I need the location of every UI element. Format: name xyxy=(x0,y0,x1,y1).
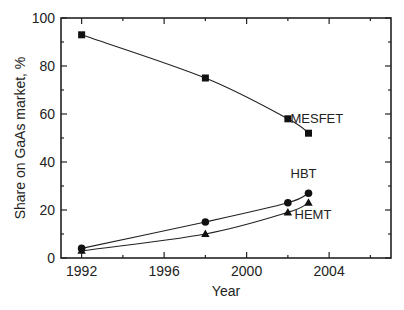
x-tick-label: 2000 xyxy=(231,263,262,279)
series-layer xyxy=(77,31,312,254)
hbt-line xyxy=(82,193,309,248)
hbt-point xyxy=(284,199,292,207)
y-axis-title: Share on GaAs market, % xyxy=(12,57,28,220)
hbt-point xyxy=(202,218,210,226)
mesfet-label: MESFET xyxy=(291,111,344,126)
y-tick-label: 40 xyxy=(39,154,55,170)
axis-ticks: 1992199620002004020406080100 xyxy=(32,10,391,279)
x-axis-title: Year xyxy=(212,283,241,299)
mesfet-point xyxy=(202,75,209,82)
y-tick-label: 100 xyxy=(32,10,56,26)
hemt-label: HEMT xyxy=(295,207,332,222)
y-tick-label: 20 xyxy=(39,202,55,218)
plot-frame xyxy=(61,18,391,258)
y-tick-label: 80 xyxy=(39,58,55,74)
mesfet-line xyxy=(82,35,309,133)
hbt-point xyxy=(305,189,313,197)
gaas-market-share-chart: 1992199620002004020406080100 Year Share … xyxy=(0,0,404,310)
series-labels: MESFETHBTHEMT xyxy=(291,111,344,222)
x-tick-label: 1992 xyxy=(66,263,97,279)
mesfet-point xyxy=(305,130,312,137)
x-tick-label: 1996 xyxy=(149,263,180,279)
x-tick-label: 2004 xyxy=(314,263,345,279)
y-tick-label: 0 xyxy=(47,250,55,266)
mesfet-point xyxy=(78,31,85,38)
hbt-label: HBT xyxy=(291,166,317,181)
y-tick-label: 60 xyxy=(39,106,55,122)
hemt-point xyxy=(304,198,312,206)
hemt-line xyxy=(82,203,309,251)
